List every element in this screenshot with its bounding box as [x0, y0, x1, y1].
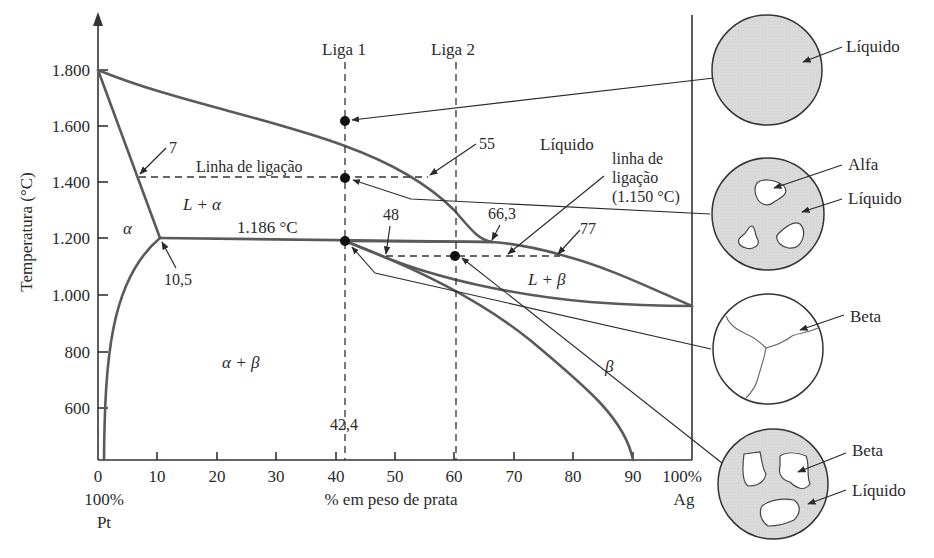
x-tick: 80 [565, 467, 582, 486]
x-tick: 90 [625, 467, 642, 486]
liga1-label: Liga 1 [322, 40, 366, 59]
leader-liquid [352, 78, 714, 120]
annot-7: 7 [169, 139, 177, 156]
x-tick: 30 [268, 467, 285, 486]
point-liga1-liquid [340, 116, 350, 126]
point-liga1-peritectic [340, 236, 350, 246]
x-tick-ag-pct: 100% [662, 467, 702, 486]
arrow-7-icon [140, 148, 166, 174]
arrow-55-icon [430, 144, 476, 175]
micro-beta2-label: Beta [852, 441, 884, 460]
x-tick-labels: 0 10 20 30 40 50 60 70 80 90 100% Ag 100… [84, 467, 702, 532]
leader-beta-liquid [462, 258, 722, 463]
micro-alpha-liquid: Alfa Líquido [712, 155, 902, 270]
x-tick: 20 [209, 467, 226, 486]
arrow-77-icon [558, 230, 580, 254]
liquidus-curve [98, 70, 492, 242]
alpha-solidus-curve [98, 70, 160, 238]
beta-solvus-curve [345, 241, 633, 460]
liga2-label: Liga 2 [431, 40, 475, 59]
y-tick: 1.000 [52, 286, 90, 305]
axes [93, 12, 692, 460]
tie-line-2-label-1: linha de [612, 150, 663, 167]
x-tick: 10 [149, 467, 166, 486]
annot-42-4: 42,4 [330, 416, 358, 433]
y-tick-labels: 1.800 1.600 1.400 1.200 1.000 800 600 [52, 61, 90, 418]
tie-line-1-label: Linha de ligação [196, 158, 303, 176]
x-tick: 60 [446, 467, 463, 486]
micro-liquido-label: Líquido [848, 189, 902, 208]
annot-48: 48 [383, 206, 399, 223]
pt-ag-phase-diagram: 1.800 1.600 1.400 1.200 1.000 800 600 Te… [0, 0, 934, 558]
y-tick: 1.600 [52, 117, 90, 136]
region-alpha: α [123, 219, 133, 238]
micro-alfa-label: Alfa [848, 155, 879, 174]
y-axis-label: Temperatura (°C) [17, 172, 36, 291]
arrow-tie-line-2-icon [508, 176, 604, 254]
peritectic-line-right [345, 241, 492, 242]
plot-labels: Liga 1 Liga 2 Líquido Linha de ligação L… [123, 40, 680, 433]
micro-liquid-label: Líquido [846, 37, 900, 56]
x-tick: 40 [328, 467, 345, 486]
annot-10-5: 10,5 [164, 271, 192, 288]
region-l-beta: L + β [527, 270, 566, 289]
x-axis-label: % em peso de prata [324, 490, 458, 509]
micro-beta-liquid: Beta Líquido [718, 429, 906, 539]
x-tick: 50 [387, 467, 404, 486]
peritectic-temp-label: 1.186 °C [237, 218, 298, 237]
region-alpha-beta: α + β [222, 353, 260, 372]
annot-66-3: 66,3 [488, 205, 516, 222]
region-l-alpha: L + α [182, 195, 222, 214]
y-tick: 600 [65, 399, 91, 418]
micro-beta: Beta [713, 294, 882, 404]
y-tick: 1.800 [52, 61, 90, 80]
annot-77: 77 [580, 220, 596, 237]
leader-beta [352, 247, 711, 349]
micro-beta-label: Beta [850, 307, 882, 326]
beta-solidus-curve [345, 241, 692, 306]
y-tick: 1.200 [52, 229, 90, 248]
y-tick: 800 [65, 343, 91, 362]
region-liquido: Líquido [540, 135, 594, 154]
y-tick: 1.400 [52, 173, 90, 192]
x-end-pt: Pt [97, 513, 111, 532]
point-liga2-l-beta [450, 251, 460, 261]
alpha-solvus-curve [104, 238, 160, 460]
x-end-ag: Ag [674, 490, 695, 509]
tie-line-2-label-3: (1.150 °C) [612, 188, 680, 206]
micro-liquid: Líquido [712, 15, 900, 125]
tie-line-2-label-2: ligação [612, 169, 658, 187]
arrow-66-3-icon [492, 225, 500, 240]
x-tick: 70 [506, 467, 523, 486]
point-liga1-l-alpha [340, 173, 350, 183]
arrow-10-5-icon [162, 242, 176, 268]
y-axis-arrow-icon [93, 12, 103, 26]
phase-curves [98, 70, 692, 460]
x-tick: 0 [94, 467, 103, 486]
beta-liquidus-curve [492, 242, 692, 306]
micro-liquido2-label: Líquido [852, 481, 906, 500]
x-end-pt-pct: 100% [84, 490, 124, 509]
region-beta: β [604, 357, 614, 376]
annot-55: 55 [479, 135, 495, 152]
